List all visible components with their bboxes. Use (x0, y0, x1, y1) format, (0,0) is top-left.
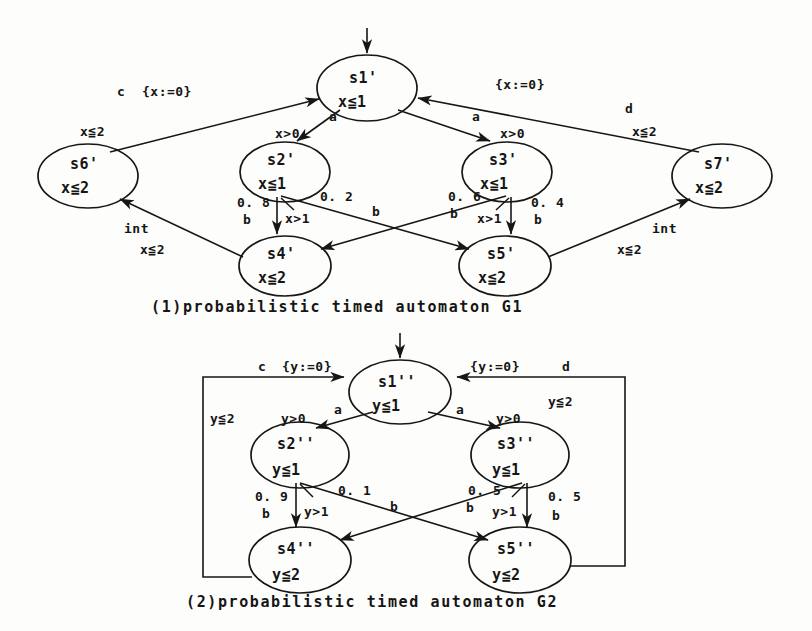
d1-node-label-s3: s3' (489, 153, 518, 168)
d2-edge-s1-to-s2 (316, 412, 373, 428)
d1-edge-label-int-left: int (124, 222, 149, 235)
d1-node-label-s5: s5' (487, 247, 516, 262)
d2-node-label-s1: s1'' (378, 375, 416, 390)
d1-prob-0-4: 0. 4 (531, 196, 564, 209)
d1-edge-label-d-guard: x≦2 (632, 125, 657, 138)
d1-edge-label-d-reset: {x:=0} (495, 78, 545, 91)
d1-edge-label-b-left-down: b (243, 213, 251, 226)
d2-node-label-s2: s2'' (277, 437, 315, 452)
figure-canvas: s1' x≦1 s2' x≦1 s3' x≦1 s4' x≦2 s5' x≦2 … (0, 0, 812, 631)
d1-guard-left-x-gt-1: x>1 (285, 212, 310, 225)
d1-edge-label-int-right: int (652, 222, 677, 235)
d1-edge-label-a-right-guard: x>0 (500, 127, 525, 140)
d2-edge-label-c: c (258, 360, 266, 373)
d1-node-invariant-s4: x≦2 (258, 271, 287, 286)
d2-node-invariant-s1: y≦1 (372, 399, 401, 414)
d2-node-invariant-s4: y≦2 (272, 568, 301, 583)
d2-node-label-s4: s4'' (277, 542, 315, 557)
d1-split-tick-right (496, 198, 509, 210)
d2-edge-label-a-right-guard: y>0 (496, 412, 521, 425)
d1-node-s7-ellipse (672, 144, 772, 208)
d2-edge-label-c-reset: {y:=0} (282, 360, 332, 373)
d2-caption: (2)probabilistic timed automaton G2 (186, 595, 558, 610)
d2-prob-0-5-left: 0. 5 (468, 484, 501, 497)
d2-guard-left-y-gt-1: y>1 (304, 505, 329, 518)
d2-edge-label-c-guard: y≦2 (210, 412, 235, 425)
d2-node-invariant-s3: y≦1 (492, 463, 521, 478)
d1-node-invariant-s6: x≦2 (61, 181, 90, 196)
d1-edge-label-d: d (625, 102, 633, 115)
d1-edge-label-a-right: a (472, 110, 480, 123)
d1-node-label-s2: s2' (267, 153, 296, 168)
d2-edge-label-b-left-down: b (262, 507, 270, 520)
d2-edge-label-b-left-cross: b (390, 500, 398, 513)
d1-edge-label-a-left-guard: x>0 (275, 127, 300, 140)
d2-edge-label-d: d (562, 360, 570, 373)
d1-edge-label-c-guard: x≦2 (80, 125, 105, 138)
d1-edge-label-b-right-down: b (534, 213, 542, 226)
d2-node-label-s5: s5'' (497, 542, 535, 557)
d2-node-invariant-s5: y≦2 (492, 568, 521, 583)
d2-edge-label-b-right-cross: b (466, 501, 474, 514)
d2-prob-0-5-right: 0. 5 (548, 490, 581, 503)
d1-edge-label-b-right-cross: b (450, 207, 458, 220)
d1-prob-0-8: 0. 8 (237, 196, 270, 209)
d1-node-invariant-s1: x≦1 (338, 95, 367, 110)
d1-guard-right-x-gt-1: x>1 (477, 212, 502, 225)
d1-edge-label-b-left-cross: b (372, 205, 380, 218)
d1-caption: (1)probabilistic timed automaton G1 (151, 300, 523, 315)
d2-guard-right-y-gt-1: y>1 (492, 505, 517, 518)
d1-node-label-s6: s6' (70, 157, 99, 172)
d2-edge-label-a-right: a (456, 403, 464, 416)
d1-node-invariant-s2: x≦1 (258, 177, 287, 192)
d1-edge-label-c-reset: c {x:=0} (117, 85, 192, 98)
d2-node-label-s3: s3'' (497, 437, 535, 452)
d1-node-label-s1: s1' (349, 71, 378, 86)
d1-prob-0-6: 0. 6 (448, 190, 481, 203)
d2-edge-label-d-reset: {y:=0} (470, 360, 520, 373)
d1-edge-label-a-left: a (329, 110, 337, 123)
d2-node-invariant-s2: y≦1 (272, 463, 301, 478)
d1-node-invariant-s5: x≦2 (478, 271, 507, 286)
d1-node-invariant-s7: x≦2 (695, 181, 724, 196)
d1-node-label-s4: s4' (267, 247, 296, 262)
d1-edge-label-int-left-guard: x≦2 (140, 243, 165, 256)
d2-prob-0-1: 0. 1 (338, 484, 371, 497)
d2-edge-label-a-left-guard: y>0 (281, 412, 306, 425)
d2-edge-label-d-guard: y≦2 (548, 395, 573, 408)
d2-edge-label-a-left: a (334, 403, 342, 416)
d2-edge-label-b-right-down: b (552, 509, 560, 522)
d1-edge-label-int-right-guard: x≦2 (617, 243, 642, 256)
d1-prob-0-2: 0. 2 (320, 190, 353, 203)
d1-node-s6-ellipse (38, 144, 138, 208)
d1-node-label-s7: s7' (704, 157, 733, 172)
d2-prob-0-9: 0. 9 (255, 490, 288, 503)
d1-node-invariant-s3: x≦1 (480, 177, 509, 192)
